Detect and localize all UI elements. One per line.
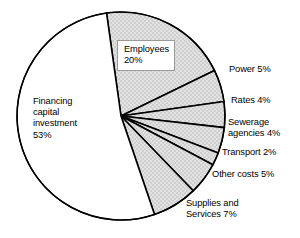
slice-label-sewerage-agencies: Sewerage agencies 4% — [228, 117, 280, 139]
slice-label-rates: Rates 4% — [231, 95, 271, 106]
slice-label-power: Power 5% — [229, 64, 271, 75]
slice-label-supplies-and-services: Supplies and Services 7% — [186, 198, 239, 220]
slice-label-transport: Transport 2% — [222, 147, 276, 158]
pie-chart: Financing capital investment 53% Employe… — [0, 0, 300, 238]
slice-label-financing-capital-investment: Financing capital investment 53% — [33, 96, 77, 141]
slice-label-employees: Employees 20% — [117, 40, 175, 71]
slice-label-other-costs: Other costs 5% — [212, 169, 274, 180]
